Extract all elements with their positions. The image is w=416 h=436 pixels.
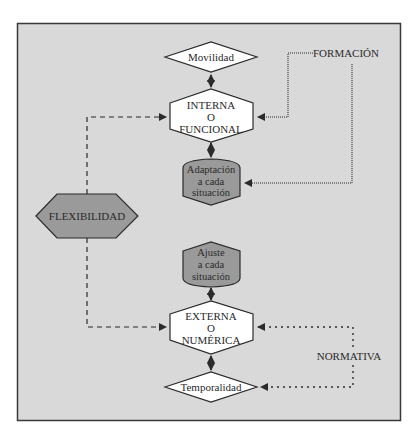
- ajuste-label-line-2: a cada: [198, 259, 225, 270]
- flexibilidad-node: FLEXIBILIDAD: [36, 194, 138, 238]
- ajuste-node: Ajuste a cada situación: [183, 242, 240, 287]
- adaptacion-label-line-2: a cada: [198, 176, 225, 187]
- adaptacion-node: Adaptación a cada situación: [183, 159, 240, 205]
- interna-label-line-1: INTERNA: [187, 99, 235, 111]
- ajuste-label-line-1: Ajuste: [197, 247, 225, 258]
- interna-label-line-3: FUNCIONAL: [179, 123, 243, 135]
- flexibilidad-label: FLEXIBILIDAD: [49, 210, 125, 222]
- externa-label-line-2: O: [207, 322, 215, 334]
- externa-label-line-3: NUMÉRICA: [182, 334, 241, 346]
- externa-label-line-1: EXTERNA: [185, 310, 236, 322]
- normativa-label: NORMATIVA: [317, 350, 382, 362]
- adaptacion-label-line-3: situación: [192, 187, 231, 198]
- adaptacion-label-line-1: Adaptación: [187, 164, 236, 175]
- interna-label-line-2: O: [207, 111, 215, 123]
- formacion-label: FORMACIÓN: [313, 47, 379, 59]
- movilidad-label: Movilidad: [188, 51, 234, 63]
- flexibility-diagram: Movilidad INTERNA O FUNCIONAL Adaptación…: [0, 0, 416, 436]
- temporalidad-label: Temporalidad: [181, 381, 242, 393]
- ajuste-label-line-3: situación: [192, 271, 231, 282]
